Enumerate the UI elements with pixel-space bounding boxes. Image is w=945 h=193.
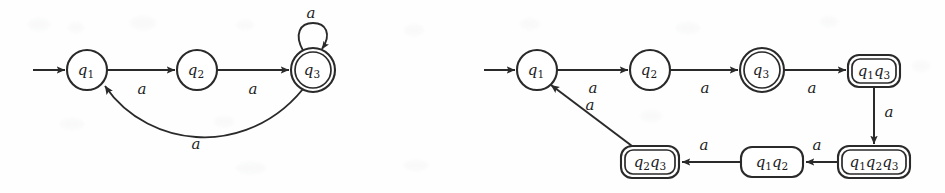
edge-label-q1-q2: a [589, 79, 598, 97]
state-q1q2[interactable]: q1q2 [741, 147, 803, 177]
edge-label-q1q3-q1q2q3: a [885, 103, 894, 121]
edge-label-q2q3-q1: a [586, 96, 595, 114]
automata-figure: a a a a q1 q2 q3 [0, 0, 945, 193]
state-q1[interactable]: q1 [67, 50, 107, 90]
state-q1q2q3-label: q1q2q3 [850, 153, 899, 172]
state-q3[interactable]: q3 [291, 48, 335, 92]
edge-label-q1q2q3-q1q2: a [813, 136, 822, 154]
state-q2[interactable]: q2 [177, 50, 217, 90]
state-q2q3[interactable]: q2q3 [621, 146, 679, 178]
state-q3[interactable]: q3 [740, 48, 784, 92]
edge-label-q1-q2: a [138, 80, 147, 98]
edge-label-q2-q3: a [249, 80, 258, 98]
edge-label-q3-q1: a [192, 135, 201, 153]
edge-label-q2-q3: a [701, 79, 710, 97]
state-q2[interactable]: q2 [630, 50, 670, 90]
transition-q3-q1 [105, 86, 303, 137]
nfa-diagram: a a a a q1 q2 q3 [0, 0, 472, 193]
state-q1[interactable]: q1 [517, 50, 557, 90]
edge-label-q3-q1q3: a [808, 79, 817, 97]
state-q1q2q3[interactable]: q1q2q3 [838, 146, 910, 178]
dfa-diagram: a a a a a a a q1 q2 q [472, 0, 945, 193]
state-q1q3[interactable]: q1q3 [848, 55, 900, 87]
edge-label-q3-self-loop: a [307, 4, 316, 22]
transition-q3-q3-self-loop [299, 23, 327, 51]
edge-label-q1q2-q2q3: a [700, 136, 709, 154]
